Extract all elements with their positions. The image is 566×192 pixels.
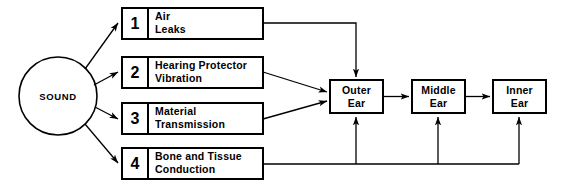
pathway-3-label-line2: Transmission [155,118,225,130]
connector-pathway-3-to-outer-ear [263,101,327,119]
pathway-box-3[interactable]: 3 Material Transmission [122,103,263,134]
outer-ear-label-line2: Ear [348,97,366,109]
outer-ear-label-line1: Outer [342,84,371,96]
middle-ear-label-line2: Ear [430,97,448,109]
ray-to-pathway-4 [85,124,118,163]
ear-stage-inner[interactable]: Inner Ear [493,80,546,113]
pathway-2-label-line1: Hearing Protector [155,59,247,71]
sound-pathway-diagram: SOUND 1 Air Leaks 2 Hearing Protector Vi… [0,0,566,192]
connector-pathway-1-to-outer-ear [263,23,356,77]
ray-to-pathway-1 [85,23,118,69]
pathway-3-label-line1: Material [155,105,196,117]
inner-ear-label-line1: Inner [506,84,533,96]
ray-to-pathway-2 [94,72,118,85]
sound-label: SOUND [39,91,76,102]
inner-ear-label-line2: Ear [511,97,529,109]
pathway-4-label-line1: Bone and Tissue [155,150,242,162]
ray-to-pathway-3 [95,107,118,119]
pathway-4-label-line2: Conduction [155,163,215,175]
pathway-1-label-line2: Leaks [155,23,186,35]
pathway-2-number: 2 [131,64,140,81]
ear-stage-middle[interactable]: Middle Ear [412,80,465,113]
pathway-box-4[interactable]: 4 Bone and Tissue Conduction [122,148,263,179]
pathway-4-number: 4 [131,155,140,172]
pathway-box-1[interactable]: 1 Air Leaks [122,8,263,39]
middle-ear-label-line1: Middle [421,84,455,96]
pathway-2-label-line2: Vibration [155,72,202,84]
pathway-1-number: 1 [131,15,140,32]
connector-pathway-2-to-outer-ear [263,72,327,92]
pathway-box-2[interactable]: 2 Hearing Protector Vibration [122,57,263,88]
pathway-1-label-line1: Air [155,10,170,22]
pathway-3-number: 3 [131,110,140,127]
ear-stage-outer[interactable]: Outer Ear [330,80,383,113]
pathway-1-frame [122,8,263,39]
diagram-canvas: SOUND 1 Air Leaks 2 Hearing Protector Vi… [0,0,566,192]
